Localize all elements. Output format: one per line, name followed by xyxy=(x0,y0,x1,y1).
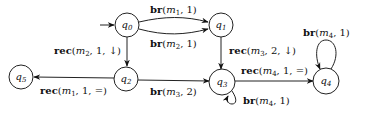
label-rec-m2-1-down: rec(m2, 1, ↓) xyxy=(54,45,121,58)
label-br-m2-1: br(m2, 1) xyxy=(150,38,197,51)
edge-q4-self-br-m4 xyxy=(317,40,336,69)
label-rec-m3-2-down: rec(m3, 2, ↓) xyxy=(229,45,296,58)
state-q3: q3 xyxy=(209,69,235,95)
label-rec-m4-1-eq: rec(m4, 1, =) xyxy=(241,65,308,78)
label-br-m3-2: br(m3, 2) xyxy=(150,86,197,99)
state-q4: q4 xyxy=(313,68,339,94)
state-q0: q0 xyxy=(115,13,139,37)
state-q5: q5 xyxy=(9,65,33,89)
state-q2: q2 xyxy=(114,67,138,91)
edge-q2-q5-rec-m1 xyxy=(34,77,114,78)
edge-q0-q1-br-m2 xyxy=(139,29,208,34)
edge-q2-q3-br-m3 xyxy=(138,80,209,81)
label-rec-m1-1-eq: rec(m1, 1, =) xyxy=(40,85,107,98)
label-br-m4-1-q4: br(m4, 1) xyxy=(303,27,350,40)
edge-q0-q1-br-m1 xyxy=(139,18,208,23)
label-br-m1-1: br(m1, 1) xyxy=(150,4,197,17)
label-br-m4-1-q3: br(m4, 1) xyxy=(243,95,290,108)
state-q1: q1 xyxy=(209,13,233,37)
automaton-diagram: q0 q1 q2 q3 q4 q5 br(m1, 1) br(m2, 1) re… xyxy=(0,0,365,114)
